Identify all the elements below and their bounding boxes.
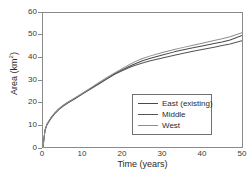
legend-swatch-0 — [138, 103, 158, 104]
y-axis-title-base: Area (km — [9, 58, 19, 95]
y-tick-label-10: 10 — [13, 121, 37, 129]
x-tick-label-30: 30 — [151, 150, 173, 158]
figure-area: 0 10 20 30 40 50 60 0 10 20 30 40 50 Tim… — [0, 0, 252, 170]
legend-item-1[interactable]: Middle — [135, 109, 209, 120]
legend-swatch-1 — [138, 114, 158, 115]
x-tick-label-50: 50 — [231, 150, 252, 158]
legend-label-1: Middle — [162, 111, 186, 119]
y-axis-title-close: ) — [9, 52, 19, 55]
x-tick-label-40: 40 — [191, 150, 213, 158]
x-axis-title: Time (years) — [42, 159, 243, 169]
x-tick-label-0: 0 — [31, 150, 53, 158]
legend[interactable]: East (existing) Middle West — [132, 94, 212, 135]
legend-label-0: East (existing) — [162, 100, 213, 108]
legend-item-2[interactable]: West — [135, 120, 209, 131]
x-tick-label-20: 20 — [111, 150, 133, 158]
y-axis-title-exponent: 2 — [8, 55, 14, 58]
y-tick-label-60: 60 — [13, 8, 37, 16]
x-tick-label-10: 10 — [71, 150, 93, 158]
y-axis-title: Area (km2) — [8, 34, 19, 114]
legend-label-2: West — [162, 122, 180, 130]
legend-swatch-2 — [138, 125, 158, 126]
legend-item-0[interactable]: East (existing) — [135, 98, 209, 109]
